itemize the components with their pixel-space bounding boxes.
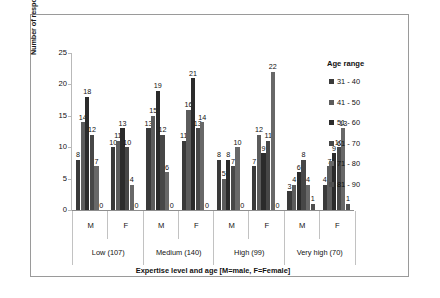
expertise-axis-label: Very high (70) [284,239,357,265]
bar [323,185,327,210]
bar [261,153,265,210]
legend-title: Age range [327,59,364,68]
bar-value-label: 13 [116,119,130,128]
bar-group: 11162113140 [178,53,213,210]
bar-value-label: 18 [80,87,94,96]
legend-item[interactable]: 71 - 80 [329,159,360,168]
legend-label: 51 - 60 [337,118,360,127]
bar [200,122,204,210]
gender-axis-label: F [178,211,214,239]
bar-value-label: 0 [235,201,249,210]
bar [222,179,226,210]
bar [111,147,115,210]
legend-item[interactable]: 41 - 50 [329,98,360,107]
bar-value-label: 4 [301,175,315,184]
bar-group: 346841 [284,53,319,210]
bar-group: 8587100 [213,53,248,210]
bar [252,166,256,210]
legend-label: 31 - 40 [337,77,360,86]
bar-value-label: 22 [266,62,280,71]
gender-axis-label: M [213,211,249,239]
bar [156,91,160,210]
bar [90,135,94,210]
gender-axis-label: M [143,211,179,239]
bar-value-label: 1 [341,194,355,203]
bar-value-label: 0 [130,201,144,210]
bar-value-label: 7 [90,157,104,166]
bar [160,135,164,210]
bar [271,72,275,210]
gender-axis-label: F [319,211,356,239]
bar [81,122,85,210]
bar-group: 712911220 [248,53,283,210]
y-tick-label: 20 [47,79,67,88]
bar-group: 1011131040 [107,53,142,210]
bar [85,97,89,210]
bar-value-label: 10 [231,138,245,147]
bar-value-label: 14 [195,113,209,122]
expertise-axis-label: High (99) [213,239,285,265]
legend-swatch-icon [329,141,334,146]
legend-item[interactable]: 51 - 60 [329,118,360,127]
bar-value-label: 8 [296,150,310,159]
bar-value-label: 6 [160,163,174,172]
bar-value-label: 21 [186,69,200,78]
bar-value-label: 0 [271,201,285,210]
bar [292,185,296,210]
bar [217,160,221,210]
bar-value-label: 0 [165,201,179,210]
legend-label: 81 - 90 [337,180,360,189]
y-tick-label: 10 [47,142,67,151]
gender-axis-label: M [72,211,108,239]
bar [196,128,200,210]
gender-axis-label: F [107,211,143,239]
x-axis-title: Expertise level and age [M=male, F=Femal… [72,266,354,275]
y-tick-label: 0 [47,205,67,214]
bar-value-label: 4 [125,175,139,184]
legend-item[interactable]: 81 - 90 [329,180,360,189]
legend-swatch-icon [329,161,334,166]
legend-label: 61 - 70 [337,139,360,148]
legend-swatch-icon [329,79,334,84]
plot-area: 8141812701011131040131519126011162113140… [72,53,354,210]
bar [191,78,195,210]
expertise-axis-label: Low (107) [72,239,144,265]
chart-figure: Number of respondents 0510152025 8141812… [30,14,409,277]
expertise-axis-row: Low (107)Medium (140)High (99)Very high … [72,239,354,265]
bar-value-label: 12 [155,125,169,134]
bar [182,141,186,210]
bar-group: 814181270 [72,53,107,210]
legend-label: 71 - 80 [337,159,360,168]
bar [116,141,120,210]
bar [76,160,80,210]
gender-axis-label: M [284,211,320,239]
bar-value-label: 0 [94,201,108,210]
y-tick-label: 25 [47,48,67,57]
y-tick-label: 15 [47,111,67,120]
legend-swatch-icon [329,182,334,187]
expertise-axis-label: Medium (140) [143,239,215,265]
bar-value-label: 1 [306,194,320,203]
gender-axis-row: MFMFMFMF [72,211,354,239]
bar-group: 1315191260 [143,53,178,210]
legend-item[interactable]: 31 - 40 [329,77,360,86]
bar-value-label: 0 [200,201,214,210]
bar-value-label: 19 [151,81,165,90]
gender-axis-label: F [248,211,284,239]
y-axis-title: Number of respondents [29,0,38,75]
bar-value-label: 12 [85,125,99,134]
bar [287,191,291,210]
legend-swatch-icon [329,120,334,125]
legend-swatch-icon [329,100,334,105]
legend-label: 41 - 50 [337,98,360,107]
bar [226,160,230,210]
bar-value-label: 10 [120,138,134,147]
y-tick-label: 5 [47,174,67,183]
legend-item[interactable]: 61 - 70 [329,139,360,148]
bar [146,128,150,210]
